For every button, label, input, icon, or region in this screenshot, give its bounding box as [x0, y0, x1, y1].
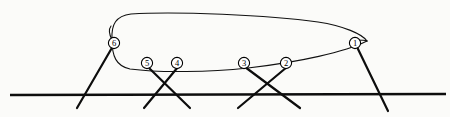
legs-group — [77, 46, 388, 111]
node-4[interactable]: 4 — [171, 57, 182, 68]
node-5[interactable]: 5 — [141, 57, 152, 68]
leg-2 — [238, 67, 287, 108]
node-3[interactable]: 3 — [238, 57, 249, 68]
body-top-outline — [112, 13, 367, 41]
nodes-group: 1 2 3 4 5 6 — [108, 37, 360, 68]
node-1[interactable]: 1 — [349, 37, 360, 48]
node-6[interactable]: 6 — [108, 37, 119, 48]
node-2-label: 2 — [284, 58, 288, 68]
node-2[interactable]: 2 — [280, 57, 291, 68]
diagram-svg: 1 2 3 4 5 6 — [0, 0, 450, 117]
leg-5 — [148, 67, 190, 108]
node-3-label: 3 — [242, 58, 246, 68]
figure-canvas: 1 2 3 4 5 6 — [0, 0, 450, 117]
leg-6 — [77, 46, 113, 108]
ground-line — [10, 94, 446, 95]
node-5-label: 5 — [145, 58, 149, 68]
leg-1 — [357, 47, 388, 111]
node-6-label: 6 — [112, 38, 116, 48]
node-1-label: 1 — [353, 38, 357, 48]
leg-3 — [245, 67, 300, 108]
leg-4 — [144, 67, 178, 108]
